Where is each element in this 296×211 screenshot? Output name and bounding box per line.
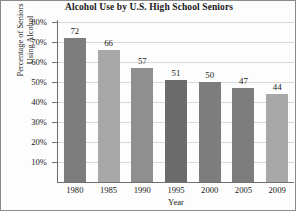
x-axis-tick-label: 2000: [193, 185, 227, 195]
bar-value-label: 66: [94, 38, 124, 48]
y-axis-tick-label: 80%: [1, 17, 47, 27]
bar-value-label: 50: [195, 70, 225, 80]
bar: [165, 80, 187, 182]
chart-figure: Alcohol Use by U.S. High School Seniors …: [0, 0, 296, 211]
x-axis-tick-label: 1995: [159, 185, 193, 195]
x-axis-line: [57, 182, 294, 183]
bar-value-label: 44: [262, 82, 292, 92]
y-axis-tick-label: 30%: [1, 117, 47, 127]
y-axis-tick-label: 10%: [1, 157, 47, 167]
bar-value-label: 47: [228, 76, 258, 86]
bar: [98, 50, 120, 182]
y-axis-tick-label: 40%: [1, 97, 47, 107]
x-axis-tick-label: 1990: [125, 185, 159, 195]
chart-title: Alcohol Use by U.S. High School Seniors: [1, 2, 296, 12]
bar: [232, 88, 254, 182]
bar: [64, 38, 86, 182]
x-axis-title: Year: [58, 197, 294, 207]
x-axis-tick-label: 2009: [260, 185, 294, 195]
x-axis-tick-label: 2005: [226, 185, 260, 195]
x-axis-tick-label: 1980: [58, 185, 92, 195]
y-axis-tick-label: 50%: [1, 77, 47, 87]
y-axis-tick-label: 60%: [1, 57, 47, 67]
bar: [266, 94, 288, 182]
y-axis-tick-label: 20%: [1, 137, 47, 147]
bar: [199, 82, 221, 182]
bar-value-label: 57: [127, 56, 157, 66]
bar-value-label: 51: [161, 68, 191, 78]
x-axis-tick-label: 1985: [92, 185, 126, 195]
bar: [131, 68, 153, 182]
y-axis-tick-label: 70%: [1, 37, 47, 47]
bar-value-label: 72: [60, 26, 90, 36]
